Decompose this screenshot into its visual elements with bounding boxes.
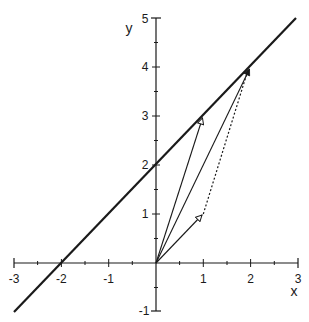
line-y-equals-x-plus-2 <box>14 18 296 312</box>
x-tick-label: 2 <box>247 272 254 286</box>
x-tick-label: -2 <box>56 272 67 286</box>
x-axis-label: x <box>291 283 298 299</box>
y-tick-label: -1 <box>139 304 150 318</box>
x-tick-label: -1 <box>103 272 114 286</box>
y-tick-label: 3 <box>142 109 149 123</box>
x-axis: -3 -2 -1 1 2 3 x <box>9 258 302 299</box>
y-axis-label: y <box>126 20 133 36</box>
coordinate-plane: -3 -2 -1 1 2 3 x -1 1 2 3 4 5 y <box>0 0 309 322</box>
vector-1-1 <box>156 215 202 263</box>
x-tick-label: 1 <box>200 272 207 286</box>
y-tick-label: 2 <box>142 158 149 172</box>
y-tick-label: 5 <box>142 12 149 26</box>
y-tick-label: 1 <box>142 207 149 221</box>
vector-2-4 <box>156 69 250 263</box>
x-tick-label: -3 <box>9 272 20 286</box>
y-tick-label: 4 <box>142 60 149 74</box>
